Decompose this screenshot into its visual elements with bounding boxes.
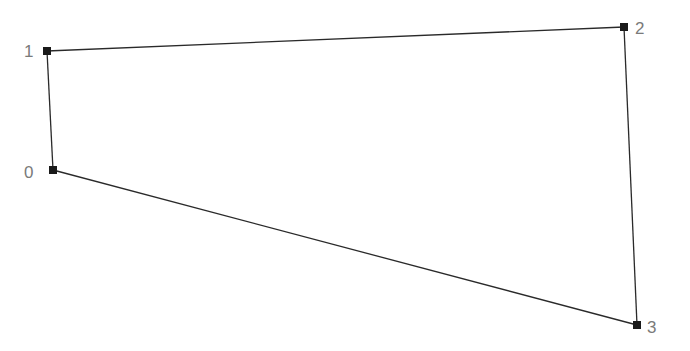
edge-1-2 xyxy=(47,27,624,51)
edges-group xyxy=(47,27,637,325)
vertex-labels-group: 0123 xyxy=(24,19,656,337)
vertex-label-2: 2 xyxy=(635,19,644,38)
vertex-marker-0 xyxy=(49,166,57,174)
edge-0-1 xyxy=(47,51,53,170)
vertex-label-1: 1 xyxy=(24,42,33,61)
quadrilateral-diagram: 0123 xyxy=(0,0,690,351)
vertex-label-0: 0 xyxy=(24,163,33,182)
vertex-marker-1 xyxy=(43,47,51,55)
edge-3-0 xyxy=(53,170,637,325)
vertex-marker-3 xyxy=(633,321,641,329)
edge-2-3 xyxy=(624,27,637,325)
vertex-markers-group xyxy=(43,23,641,329)
vertex-marker-2 xyxy=(620,23,628,31)
vertex-label-3: 3 xyxy=(647,318,656,337)
